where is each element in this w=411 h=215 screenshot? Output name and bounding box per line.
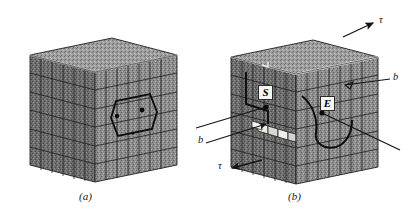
cube-a-side-face [30, 55, 95, 182]
tau-top-label: τ [379, 14, 383, 25]
e-anchor-dot [319, 110, 324, 115]
tau-bottom-label: τ [218, 160, 222, 171]
cube-a-front-face [95, 55, 177, 182]
panel-a-cube [30, 38, 177, 182]
s-anchor-dot [263, 104, 268, 109]
figure-container: S E τ τ b b (a) (b) [0, 0, 411, 215]
panel-b-cube [196, 23, 400, 184]
loop-node-right [140, 108, 145, 113]
tau-top-arrow [343, 23, 373, 37]
b-right-label: b [393, 71, 398, 82]
cube-b-side-face [231, 57, 296, 184]
caption-panel-b: (b) [288, 190, 301, 202]
caption-panel-a: (a) [79, 190, 92, 202]
edge-segment-label: E [320, 96, 335, 111]
loop-node-left [115, 114, 119, 118]
loop-node-bottom [131, 131, 134, 134]
figure-canvas [0, 0, 411, 215]
b-left-label: b [198, 134, 203, 145]
screw-segment-label: S [258, 85, 273, 100]
